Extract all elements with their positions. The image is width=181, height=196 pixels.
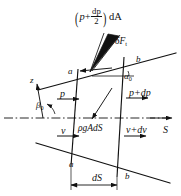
corner-label-b-bottom: b [125,172,130,181]
velocity-in-label: v [61,126,65,136]
upstream-face-aa [71,69,78,166]
weight-force-arrow [92,88,112,119]
dp-over-2-fraction: dp2 [91,7,102,26]
downstream-face-bb [117,57,124,177]
side-force-subscript: t [125,40,127,47]
pressure-force-top-label: (p+dp2)dA [74,7,122,27]
corner-label-a-bottom: a [69,160,74,169]
formula-plus: + [85,11,91,22]
s-axis-label: S [163,125,168,135]
beta-angle-arc [47,104,55,114]
formula-dA: dA [109,11,122,22]
corner-label-a-top: a [68,67,73,76]
pressure-out-label: p+dp [129,88,151,98]
paren-close: ) [103,11,106,27]
alpha-subscript: 0 [129,76,132,82]
fraction-denominator: 2 [91,17,102,26]
diagram-canvas [0,0,181,196]
fluid-element-diagram: (p+dp2)dA δFt a b α0 z β0 p p+dp v ρgAdS… [0,0,181,196]
pressure-in-label: p [60,89,65,99]
side-force-label: δFt [115,37,127,47]
alpha-angle-label: α0 [124,72,132,82]
z-axis-label: z [30,76,34,85]
pressure-arrows [57,98,148,99]
paren-open: ( [75,11,78,27]
beta-subscript: 0 [40,105,43,111]
lower-wall-line [36,143,170,183]
weight-term-label: ρgAdS [78,124,103,134]
velocity-out-label: v+dv [126,125,147,135]
beta-angle-label: β0 [36,101,44,111]
top-surface-arrow [80,68,112,71]
ds-length-label: dS [92,173,102,183]
control-volume-faces [71,57,124,177]
upper-wall-line [38,53,176,90]
corner-label-b-top: b [136,55,141,64]
side-force-symbol: δF [115,36,125,46]
